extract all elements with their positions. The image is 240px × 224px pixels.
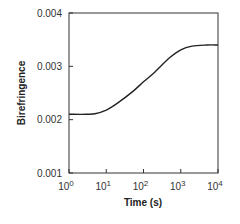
y-tick-label: 0.003	[37, 61, 62, 72]
x-axis-title: Time (s)	[124, 197, 162, 208]
x-tick-label: 103	[170, 179, 186, 192]
x-tick-label: 104	[207, 179, 223, 192]
plot-frame	[69, 13, 218, 173]
data-series-line	[69, 45, 218, 114]
x-tick-label: 101	[95, 179, 111, 192]
y-axis-title: Birefringence	[16, 60, 27, 125]
x-tick-label: 102	[133, 179, 149, 192]
y-tick-label: 0.001	[37, 168, 62, 179]
y-tick-label: 0.004	[37, 8, 62, 19]
y-tick-label: 0.002	[37, 114, 62, 125]
x-tick-label: 100	[58, 179, 74, 192]
y-axis-ticks: 0.0010.0020.0030.004	[37, 8, 73, 179]
birefringence-chart: 0.0010.0020.0030.004 100101102103104 Tim…	[0, 0, 240, 224]
x-axis-ticks: 100101102103104	[58, 169, 223, 192]
